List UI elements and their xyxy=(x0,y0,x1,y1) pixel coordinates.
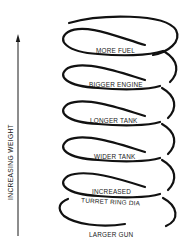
label-bigger-engine: BIGGER ENGINE xyxy=(89,81,143,88)
coil-4-side xyxy=(162,160,174,190)
increasing-weight-axis: INCREASING WEIGHT xyxy=(7,34,21,236)
axis-label: INCREASING WEIGHT xyxy=(7,124,14,200)
label-wider-tank: WIDER TANK xyxy=(94,153,136,160)
coil-1-side xyxy=(165,52,176,82)
coil-2-side xyxy=(162,88,174,118)
weight-spiral-diagram: INCREASING WEIGHT MORE FUEL BIGGER ENGIN… xyxy=(0,0,191,252)
label-more-fuel: MORE FUEL xyxy=(96,47,135,54)
coil-5-side xyxy=(163,198,175,226)
label-larger-gun: LARGER GUN xyxy=(89,231,133,238)
arrow-up-icon xyxy=(16,34,20,42)
label-longer-tank: LONGER TANK xyxy=(90,117,138,124)
coil-3-side xyxy=(162,124,174,154)
label-increased: INCREASED xyxy=(92,188,131,195)
